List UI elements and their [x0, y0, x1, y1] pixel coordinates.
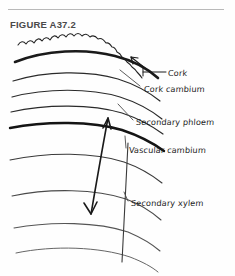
label-secondary-phloem: Secondary phloem — [136, 117, 215, 127]
stem-cross-section-drawing — [0, 0, 235, 276]
right-boundary-leader-line — [122, 143, 128, 262]
xylem-arc-3 — [14, 223, 160, 251]
xylem-arc-1 — [10, 154, 162, 183]
xylem-arc-4 — [16, 248, 158, 272]
vascular-cambium-leader-line — [125, 136, 126, 148]
cork-leader-arrow — [131, 57, 150, 72]
xylem-extent-arrow-shaft — [91, 118, 108, 214]
label-secondary-xylem: Secondary xylem — [131, 198, 204, 208]
label-vascular-cambium: Vascular cambium — [129, 145, 207, 155]
xylem-extent-arrowhead-down-icon — [84, 202, 97, 214]
figure-container: FIGURE A37.2 — [0, 0, 235, 276]
phloem-arc-2 — [12, 90, 162, 119]
phloem-arc-1 — [13, 73, 160, 101]
label-cork: Cork — [168, 68, 188, 78]
label-cork-cambium: Cork cambium — [144, 84, 205, 94]
